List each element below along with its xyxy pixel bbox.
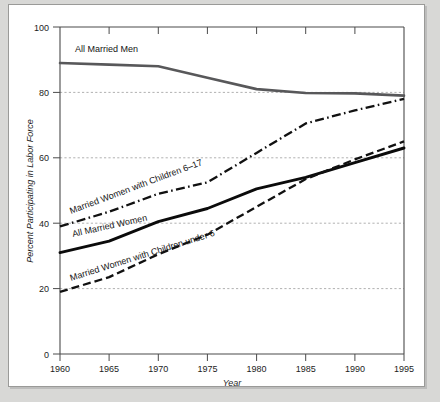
x-tick-label-1980: 1980 [247,364,267,374]
x-tick-label-1985: 1985 [296,364,316,374]
x-tick-label-1965: 1965 [99,364,119,374]
y-tick-label-40: 40 [39,219,49,229]
x-tick-label-1990: 1990 [345,364,365,374]
y-tick-label-100: 100 [34,23,49,33]
chart-figure: 100 80 60 40 20 0 1960 1965 1970 1975 19… [9,5,424,386]
y-tick-label-60: 60 [39,153,49,163]
y-axis-title: Percent Participating in Labor Force [25,119,35,263]
line-chart-svg: 100 80 60 40 20 0 1960 1965 1970 1975 19… [9,5,424,386]
y-tick-label-80: 80 [39,88,49,98]
x-tick-marks [60,354,404,361]
top-tick-marks [109,27,355,34]
series-label-children-6-17: Married Women with Children 6–17 [68,157,203,216]
x-tick-label-1995: 1995 [394,364,414,374]
chart-panel: 100 80 60 40 20 0 1960 1965 1970 1975 19… [8,4,425,387]
y-tick-marks [53,27,60,354]
x-tick-label-1960: 1960 [50,364,70,374]
x-tick-labels: 1960 1965 1970 1975 1980 1985 1990 1995 [50,364,414,374]
y-tick-label-0: 0 [44,350,49,360]
x-axis-title: Year [223,378,243,386]
y-tick-labels: 100 80 60 40 20 0 [34,23,49,360]
y-tick-label-20: 20 [39,284,49,294]
series-label-all-married-women: All Married Women [71,213,148,239]
series-line-all-married-men [60,63,404,96]
screenshot-root: 100 80 60 40 20 0 1960 1965 1970 1975 19… [0,0,440,402]
x-tick-label-1975: 1975 [197,364,217,374]
series-label-children-under-6: Married Women with Children under 6 [69,228,216,283]
x-tick-label-1970: 1970 [148,364,168,374]
series-label-all-married-men: All Married Men [75,44,138,54]
